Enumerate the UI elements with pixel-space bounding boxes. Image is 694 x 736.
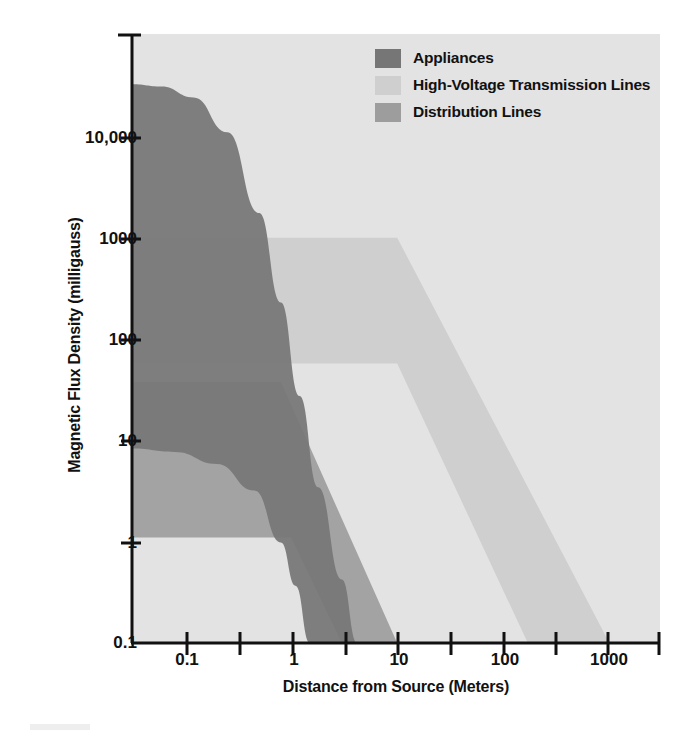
legend-swatch-distribution-lines — [375, 103, 401, 122]
x-tick-label-1: 1 — [289, 650, 298, 670]
chart-legend: Appliances High-Voltage Transmission Lin… — [375, 48, 650, 122]
legend-swatch-high-voltage-transmission-lines — [375, 76, 401, 95]
legend-swatch-appliances — [375, 49, 401, 68]
x-tick-label-0.1: 0.1 — [175, 650, 199, 670]
x-tick-label-1000: 1000 — [590, 650, 628, 670]
y-tick-label-1: 1 — [128, 533, 137, 553]
legend-item-high-voltage-transmission-lines: High-Voltage Transmission Lines — [375, 75, 650, 95]
legend-item-distribution-lines: Distribution Lines — [375, 102, 650, 122]
y-tick-label-10: 10 — [118, 431, 137, 451]
y-tick-label-100: 100 — [109, 330, 137, 350]
x-axis-title: Distance from Source (Meters) — [132, 678, 660, 696]
y-tick-label-0.1: 0.1 — [113, 633, 137, 653]
y-tick-label-10000: 10,000 — [85, 128, 137, 148]
y-axis-title: Magnetic Flux Density (milligauss) — [66, 65, 84, 625]
legend-label-distribution-lines: Distribution Lines — [413, 104, 541, 120]
chart-figure: 10,000 1000 100 10 1 0.1 0.1 1 10 100 10… — [0, 0, 694, 736]
page-edge-artifact — [30, 724, 90, 730]
legend-label-high-voltage-transmission-lines: High-Voltage Transmission Lines — [413, 77, 650, 93]
x-tick-label-10: 10 — [390, 650, 409, 670]
legend-item-appliances: Appliances — [375, 48, 650, 68]
x-tick-label-100: 100 — [491, 650, 519, 670]
y-tick-label-1000: 1000 — [99, 229, 137, 249]
legend-label-appliances: Appliances — [413, 50, 494, 66]
